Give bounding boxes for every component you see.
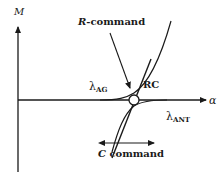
alpha-axis-label: α: [209, 94, 217, 107]
equilibrium-diagram: M α R-command λAG RC λANT C command: [0, 0, 222, 186]
r-command-label: R-command: [77, 16, 145, 27]
lambda-ag-label: λAG: [89, 80, 107, 94]
lambda-ant-curve: [112, 100, 167, 152]
equilibrium-point: [129, 95, 139, 105]
lambda-ant-label: λANT: [166, 110, 191, 124]
r-command-arrow: [110, 33, 130, 88]
m-axis-label: M: [13, 6, 25, 17]
lambda-ag-curve: [100, 21, 171, 100]
rc-label: RC: [143, 79, 159, 90]
c-command-label: C command: [98, 148, 164, 159]
c-command-arrowhead-left: [98, 140, 105, 146]
